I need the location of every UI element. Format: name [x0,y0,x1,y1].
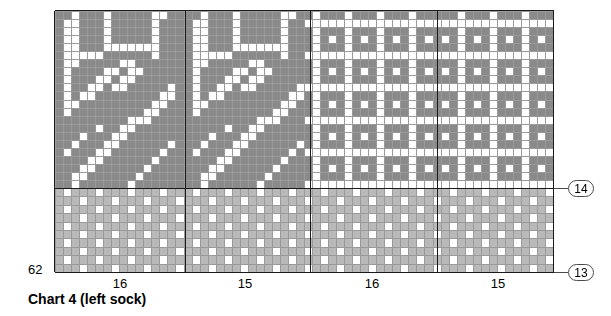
column-count-section-4: 15 [468,276,528,291]
column-count-section-1: 16 [90,276,150,291]
section-divider-1 [185,11,186,272]
chart-grid-container [55,11,553,272]
round-badge-14: 14 [568,180,594,197]
column-count-section-3: 16 [342,276,402,291]
chart-border-right [553,11,554,272]
band-divider [55,188,553,189]
column-count-section-2: 15 [215,276,275,291]
chart-caption: Chart 4 (left sock) [28,291,146,307]
chart-border-top [55,10,554,11]
leader-line-round-14 [554,188,568,189]
leader-line-round-13 [554,272,568,273]
section-divider-2 [310,11,311,272]
colorwork-chart-canvas [55,11,553,272]
chart-border-left [54,11,55,272]
round-badge-13: 13 [568,264,594,281]
chart-border-bottom [55,272,554,273]
section-divider-3 [437,11,438,272]
row-number-62: 62 [28,262,42,277]
chart-figure: 62 16 15 16 15 14 13 Chart 4 (left sock) [0,0,611,316]
